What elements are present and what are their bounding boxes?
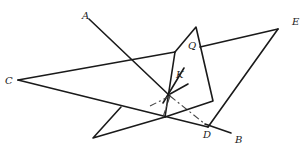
- edge-e-to-d: [208, 29, 278, 127]
- label-d: D: [202, 129, 211, 140]
- edge-c-to-q: [18, 52, 175, 80]
- lower-flap: [93, 107, 165, 138]
- geometry-figure: A B C D E Q K: [0, 0, 306, 158]
- label-c: C: [5, 75, 13, 86]
- label-a: A: [81, 10, 89, 21]
- line-ab-upper: [89, 19, 170, 96]
- label-e: E: [291, 16, 300, 27]
- label-b: B: [234, 134, 242, 145]
- label-q: Q: [188, 40, 196, 51]
- edge-c-to-d: [18, 80, 208, 127]
- label-k: K: [175, 69, 184, 80]
